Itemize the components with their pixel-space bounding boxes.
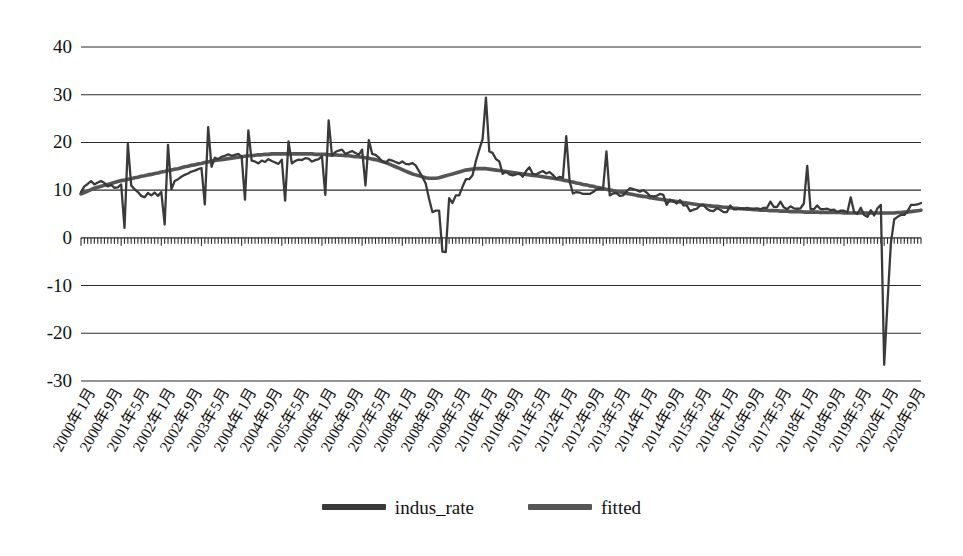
gridlines	[81, 47, 921, 381]
y-axis-tick-label: 20	[28, 132, 72, 151]
legend-label: fitted	[601, 498, 641, 517]
y-axis-tick-label: -10	[28, 276, 72, 295]
legend-swatch-icon	[528, 504, 592, 510]
chart-container: 403020100-10-20-30 2000年1月2000年9月2001年5月…	[0, 0, 963, 556]
legend-swatch-icon	[322, 504, 386, 510]
series-line-indus_rate	[81, 98, 921, 365]
legend-entry-fitted[interactable]: fitted	[528, 498, 641, 517]
chart-legend: indus_ratefitted	[0, 492, 963, 522]
y-axis-tick-label: -20	[28, 323, 72, 342]
y-axis-tick-label: 40	[28, 37, 72, 56]
x-axis-ticks	[81, 238, 921, 246]
y-axis-tick-label: 30	[28, 85, 72, 104]
y-axis-tick-label: 0	[28, 228, 72, 247]
legend-entry-indus_rate[interactable]: indus_rate	[322, 498, 474, 517]
data-series	[81, 98, 921, 365]
y-axis-tick-label: 10	[28, 180, 72, 199]
legend-label: indus_rate	[395, 498, 474, 517]
y-axis-tick-label: -30	[28, 371, 72, 390]
